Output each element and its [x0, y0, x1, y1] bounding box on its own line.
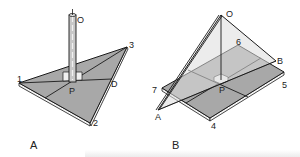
label-a-p: P	[69, 86, 75, 96]
label-a-1: 1	[17, 74, 22, 84]
label-a-o: O	[77, 15, 84, 25]
figure-diagram: O 3 1 D P 2 A O 6 B 5 7 P A 4	[0, 0, 300, 157]
label-a-3: 3	[129, 40, 134, 50]
label-a-d: D	[111, 79, 118, 89]
label-b-7: 7	[152, 85, 157, 95]
panel-b: O 6 B 5 7 P A 4 B	[152, 9, 287, 151]
label-b-p: P	[219, 85, 225, 95]
panel-a: O 3 1 D P 2 A	[17, 9, 134, 151]
label-a-2: 2	[93, 118, 98, 128]
caption-a: A	[30, 139, 38, 151]
label-b-4: 4	[211, 121, 216, 131]
label-b-b: B	[277, 56, 283, 66]
label-b-5: 5	[282, 80, 287, 90]
label-b-a: A	[155, 112, 161, 122]
bottom-shading	[85, 150, 300, 157]
label-b-o: O	[226, 9, 233, 19]
label-b-6: 6	[236, 37, 241, 47]
